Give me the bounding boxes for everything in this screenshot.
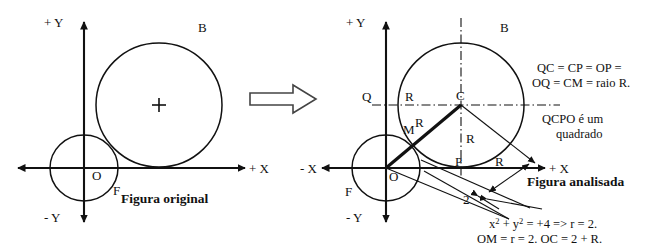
right-label-b: B: [500, 20, 509, 35]
left-diagram-group: + Y - Y + X O F B Figura original: [18, 15, 270, 225]
right-figure-title: Figura analisada: [527, 174, 624, 189]
right-label-f: F: [345, 184, 352, 199]
left-label-y-positive: + Y: [44, 15, 64, 30]
left-label-x-positive: + X: [249, 161, 270, 176]
right-label-c: C: [456, 88, 465, 103]
annotation-square-line2: quadrado: [556, 127, 603, 141]
eq-plus-y: + y: [500, 217, 520, 231]
eq-tail: = +4 => r = 2.: [523, 217, 597, 231]
right-block-arrow-icon: [250, 85, 316, 113]
annotation-equation-line1: x2 + y2 = +4 => r = 2.: [489, 216, 597, 231]
right-label-x-negative: - X: [300, 161, 318, 176]
radius-label-top: R: [405, 89, 414, 104]
annotation-square-line1: QCPO é um: [542, 112, 603, 126]
right-label-m: M: [403, 122, 415, 137]
annotation-relation-line2: OQ = CM = raio R.: [532, 76, 630, 90]
radius-label-vertical: R: [466, 131, 475, 146]
right-label-origin: O: [389, 169, 398, 184]
equation-pointer-arrow: [487, 199, 542, 209]
left-big-circle-center-plus-icon: [152, 98, 166, 112]
left-label-origin: O: [92, 168, 101, 183]
left-label-b: B: [198, 20, 207, 35]
figure-svg-canvas: + Y - Y + X O F B Figura original: [0, 0, 666, 249]
radius-label-diagonal: R: [415, 115, 424, 130]
right-label-q: Q: [362, 89, 372, 104]
annotation-equation-line2: OM = r = 2. OC = 2 + R.: [477, 232, 602, 246]
left-label-f: F: [113, 183, 120, 198]
left-label-y-negative: - Y: [44, 210, 61, 225]
right-label-p: P: [455, 154, 462, 169]
right-label-y-negative: - Y: [346, 210, 363, 225]
radius-label-x-right: R: [495, 154, 504, 169]
annotation-relation-line1: QC = CP = OP =: [537, 61, 621, 75]
measure-label-two: 2: [463, 192, 470, 207]
right-label-y-positive: + Y: [346, 15, 366, 30]
left-figure-title: Figura original: [121, 191, 209, 206]
transition-arrow-group: [250, 85, 316, 113]
geometry-figure-container: + Y - Y + X O F B Figura original: [0, 0, 666, 249]
parallelogram-edge-lower: [386, 168, 509, 219]
